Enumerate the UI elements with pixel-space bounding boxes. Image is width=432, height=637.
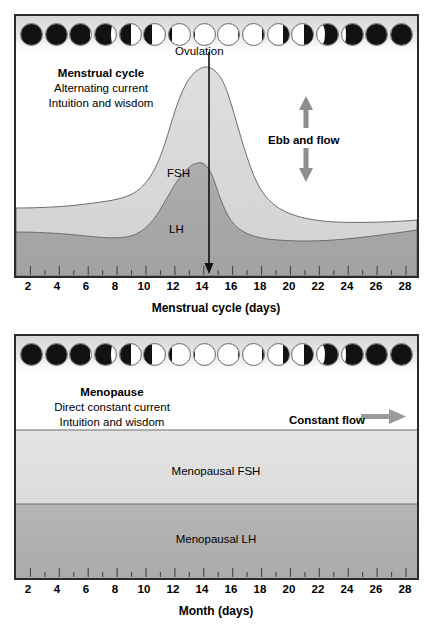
moon-phase-full-moon-icon [217, 343, 240, 366]
x-tick-cycle-26: 26 [363, 280, 389, 296]
x-tick-menopause-28: 28 [392, 583, 418, 599]
x-tick-menopause-4: 4 [44, 583, 70, 599]
x-axis-labels-cycle: 246810121416182022242628 [14, 280, 419, 296]
moon-phase-waning-gibbous-icon [291, 343, 314, 366]
moon-phase-waning-crescent-icon [341, 23, 364, 46]
moon-phase-full-moon-icon [217, 23, 240, 46]
menstrual-cycle-caption: Menstrual cycle Alternating current Intu… [16, 66, 186, 111]
x-tick-cycle-8: 8 [102, 280, 128, 296]
moon-phase-new-moon-icon [390, 23, 413, 46]
moon-phase-waning-gibbous-icon [267, 23, 290, 46]
fsh-series-label: FSH [167, 166, 190, 181]
moon-phase-waning-gibbous-icon [242, 343, 265, 366]
x-axis-labels-menopause: 246810121416182022242628 [14, 583, 419, 599]
constant-flow-arrow [361, 409, 406, 424]
moon-phase-last-quarter-icon [316, 343, 339, 366]
x-tick-menopause-16: 16 [218, 583, 244, 599]
constant-flow-label: Constant flow [289, 413, 365, 428]
ovulation-label: Ovulation [175, 44, 224, 59]
moon-phase-strip-menopause [16, 336, 417, 372]
x-tick-menopause-10: 10 [131, 583, 157, 599]
moon-phase-waxing-crescent-icon [94, 23, 117, 46]
moon-phase-waxing-gibbous-icon [143, 23, 166, 46]
x-tick-menopause-22: 22 [305, 583, 331, 599]
moon-cycle-figure: Menstrual cycle Alternating current Intu… [0, 0, 432, 637]
moon-phase-new-moon-icon [365, 343, 388, 366]
ebb-and-flow-label: Ebb and flow [268, 133, 340, 148]
moon-phase-waxing-crescent-icon [94, 343, 117, 366]
menopause-caption-title: Menopause [22, 385, 202, 400]
x-tick-menopause-24: 24 [334, 583, 360, 599]
x-tick-menopause-6: 6 [73, 583, 99, 599]
x-tick-menopause-12: 12 [160, 583, 186, 599]
moon-phase-new-moon-icon [20, 343, 43, 366]
x-tick-menopause-26: 26 [363, 583, 389, 599]
x-axis-title-menopause: Month (days) [0, 604, 432, 618]
moon-phase-full-moon-icon [193, 343, 216, 366]
moon-phase-waning-gibbous-icon [291, 23, 314, 46]
x-tick-cycle-6: 6 [73, 280, 99, 296]
x-tick-cycle-16: 16 [218, 280, 244, 296]
x-tick-menopause-8: 8 [102, 583, 128, 599]
x-tick-cycle-20: 20 [276, 280, 302, 296]
x-tick-menopause-18: 18 [247, 583, 273, 599]
moon-phase-first-quarter-icon [119, 343, 142, 366]
moon-phase-waxing-crescent-icon [69, 23, 92, 46]
moon-phase-waxing-gibbous-icon [168, 343, 191, 366]
moon-phase-last-quarter-icon [316, 23, 339, 46]
moon-phase-new-moon-icon [45, 343, 68, 366]
moon-phase-new-moon-icon [20, 23, 43, 46]
x-tick-cycle-22: 22 [305, 280, 331, 296]
moon-phase-waning-gibbous-icon [267, 343, 290, 366]
menopausal-fsh-label: Menopausal FSH [0, 464, 432, 479]
moon-phase-full-moon-icon [193, 23, 216, 46]
moon-phase-waxing-crescent-icon [69, 343, 92, 366]
moon-phase-new-moon-icon [390, 343, 413, 366]
moon-phase-waxing-gibbous-icon [143, 343, 166, 366]
x-tick-cycle-14: 14 [189, 280, 215, 296]
x-tick-cycle-24: 24 [334, 280, 360, 296]
lh-series-label: LH [169, 222, 184, 237]
x-tick-cycle-4: 4 [44, 280, 70, 296]
moon-phase-waning-gibbous-icon [242, 23, 265, 46]
menstrual-cycle-caption-title: Menstrual cycle [16, 66, 186, 81]
x-tick-menopause-20: 20 [276, 583, 302, 599]
menstrual-cycle-caption-line3: Intuition and wisdom [16, 96, 186, 111]
menopause-caption-line3: Intuition and wisdom [22, 415, 202, 430]
moon-phase-new-moon-icon [365, 23, 388, 46]
moon-phase-waning-crescent-icon [341, 343, 364, 366]
x-tick-cycle-28: 28 [392, 280, 418, 296]
menstrual-cycle-caption-line2: Alternating current [16, 81, 186, 96]
x-tick-cycle-18: 18 [247, 280, 273, 296]
menopause-caption-line2: Direct constant current [22, 400, 202, 415]
moon-phase-new-moon-icon [45, 23, 68, 46]
moon-phase-waxing-gibbous-icon [168, 23, 191, 46]
x-axis-title-cycle: Menstrual cycle (days) [0, 301, 432, 315]
x-tick-menopause-14: 14 [189, 583, 215, 599]
x-tick-cycle-2: 2 [15, 280, 41, 296]
x-tick-cycle-12: 12 [160, 280, 186, 296]
x-tick-cycle-10: 10 [131, 280, 157, 296]
moon-phase-first-quarter-icon [119, 23, 142, 46]
x-tick-menopause-2: 2 [15, 583, 41, 599]
menopause-caption: Menopause Direct constant current Intuit… [22, 385, 202, 430]
menopausal-lh-label: Menopausal LH [0, 532, 432, 547]
